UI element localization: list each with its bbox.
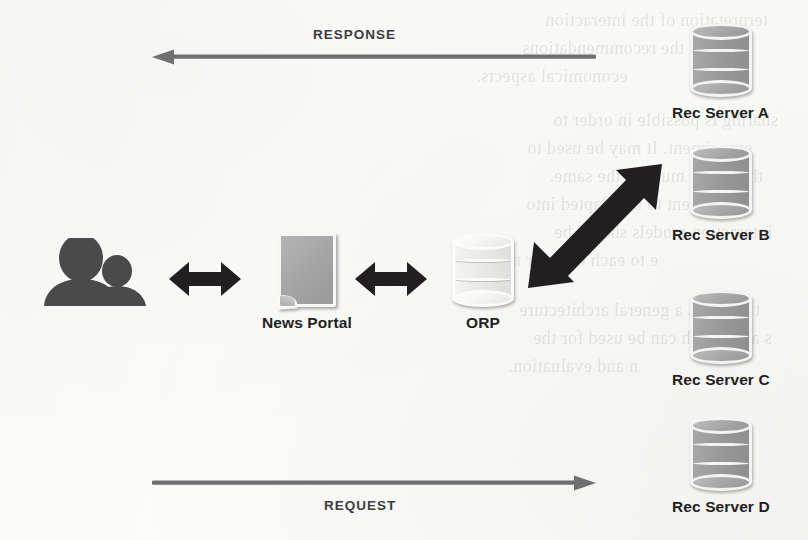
- node-news-portal[interactable]: News Portal: [262, 233, 352, 332]
- link-users-news-portal: [169, 256, 241, 302]
- architecture-diagram: RESPONSE Rec Server A: [0, 0, 808, 540]
- database-icon: [690, 417, 752, 491]
- link-news-portal-orp: [355, 256, 427, 302]
- link-orp-rec-server-b: [516, 160, 676, 292]
- node-users[interactable]: [44, 238, 148, 308]
- node-label: Rec Server C: [672, 371, 770, 389]
- node-rec-server-a[interactable]: Rec Server A: [672, 23, 769, 122]
- node-rec-server-d[interactable]: Rec Server D: [672, 417, 770, 516]
- response-flow-arrow: [152, 46, 596, 68]
- request-flow-arrow: [152, 472, 596, 494]
- response-label: RESPONSE: [313, 27, 396, 42]
- node-orp[interactable]: ORP: [452, 233, 514, 332]
- database-icon: [690, 145, 752, 219]
- node-label: Rec Server A: [672, 104, 769, 122]
- node-label: ORP: [466, 314, 500, 332]
- scanned-page: terpretation of the interaction ation of…: [0, 0, 808, 540]
- node-label: Rec Server B: [672, 226, 770, 244]
- document-icon: [278, 233, 336, 307]
- node-label: News Portal: [262, 314, 352, 332]
- database-icon: [452, 233, 514, 307]
- database-icon: [690, 290, 752, 364]
- users-icon: [44, 238, 148, 308]
- node-rec-server-b[interactable]: Rec Server B: [672, 145, 770, 244]
- node-rec-server-c[interactable]: Rec Server C: [672, 290, 770, 389]
- node-label: Rec Server D: [672, 498, 770, 516]
- request-label: REQUEST: [324, 498, 396, 513]
- database-icon: [690, 23, 752, 97]
